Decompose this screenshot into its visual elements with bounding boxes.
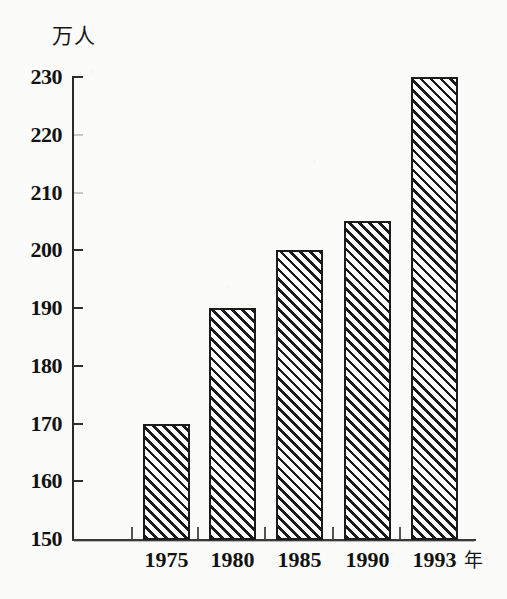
x-axis-tick-mark	[264, 527, 266, 539]
x-axis-tick-mark	[197, 527, 199, 539]
x-axis-tick-mark	[131, 527, 133, 539]
x-axis-tick-mark	[399, 527, 401, 539]
x-axis-tick-mark	[332, 527, 334, 539]
chart-page: 万人 150160170180190200210220230 197519801…	[0, 0, 507, 599]
x-axis-ticks: 19751980198519901993	[0, 0, 507, 599]
x-axis-tick-label: 1975	[145, 549, 189, 571]
x-axis-unit-label: 年	[464, 551, 483, 570]
x-axis-tick-label: 1985	[278, 549, 322, 571]
x-axis-tick-label: 1980	[211, 549, 255, 571]
x-axis-tick-label: 1993	[413, 549, 457, 571]
x-axis-tick-label: 1990	[346, 549, 390, 571]
